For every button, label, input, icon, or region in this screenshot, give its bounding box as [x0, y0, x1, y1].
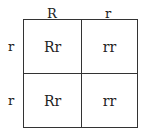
row-header-1: r — [4, 40, 18, 53]
row-header-2: r — [4, 94, 18, 107]
punnett-grid: Rr rr Rr rr — [23, 19, 138, 128]
cell-r2c2: rr — [81, 74, 138, 127]
cell-r1c2: rr — [81, 20, 138, 73]
cell-r2c1: Rr — [24, 74, 81, 127]
cell-r1c1: Rr — [24, 20, 81, 73]
